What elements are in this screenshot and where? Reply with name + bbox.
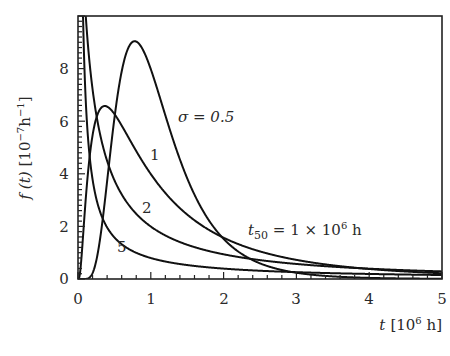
x-axis-label: t[106 h] [379,315,442,334]
curve-sigma-1 [78,106,442,279]
y-tick-0: 0 [59,270,69,288]
t50-annotation: t50 = 1 × 106 h [248,220,362,242]
y-tick-6: 6 [59,113,69,131]
sigma-annotation: σ = 0.5 [178,108,234,126]
y-axis-label: f (t)[10−7h−1] [15,96,34,200]
x-tick-0: 0 [73,290,83,308]
lognormal-pdf-chart: 0 1 2 3 4 5 0 2 4 6 8 t[106 h] f (t)[10−… [0,0,450,356]
y-tick-2: 2 [59,218,69,236]
x-tick-5: 5 [437,290,447,308]
x-tick-2: 2 [219,290,229,308]
curve-label-2: 2 [142,199,152,217]
y-tick-8: 8 [59,60,69,78]
x-tick-1: 1 [146,290,156,308]
curve-sigma-0_5 [78,41,442,279]
curve-label-5: 5 [117,238,127,256]
y-tick-4: 4 [59,165,69,183]
x-tick-3: 3 [291,290,301,308]
x-tick-4: 4 [364,290,374,308]
curve-label-1: 1 [150,146,160,164]
x-tick-labels: 0 1 2 3 4 5 [73,290,447,308]
y-tick-labels: 0 2 4 6 8 [59,60,69,288]
